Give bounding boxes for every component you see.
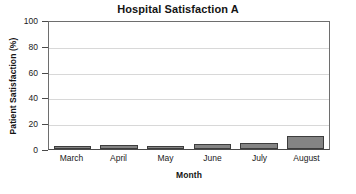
bar-slot — [189, 22, 236, 149]
y-axis-tick-label: 20 — [0, 120, 38, 129]
bar[interactable] — [100, 145, 137, 149]
bar[interactable] — [287, 136, 324, 149]
y-axis-tick-label: 0 — [0, 146, 38, 155]
y-axis-tick-label: 80 — [0, 43, 38, 52]
y-axis-tick-label: 60 — [0, 69, 38, 78]
chart-container: Hospital Satisfaction A Patient Satisfac… — [0, 0, 356, 194]
x-axis-tick-label: July — [236, 153, 283, 163]
x-axis-tick-labels: MarchAprilMayJuneJulyAugust — [48, 153, 330, 163]
bar-series — [49, 22, 329, 149]
bar-slot — [236, 22, 283, 149]
plot-area — [48, 21, 330, 150]
y-axis-tick-mark — [42, 150, 48, 151]
x-axis-tick-label: June — [189, 153, 236, 163]
y-axis-tick-label: 100 — [0, 17, 38, 26]
bar-slot — [282, 22, 329, 149]
x-axis-title: Month — [48, 170, 330, 180]
x-axis-tick-label: May — [142, 153, 189, 163]
chart-title: Hospital Satisfaction A — [0, 3, 356, 15]
bar-slot — [49, 22, 96, 149]
bar[interactable] — [240, 143, 277, 149]
bar[interactable] — [147, 146, 184, 149]
y-axis-title-container: Patient Satisfaction (%) — [6, 21, 20, 150]
y-axis-tick-label: 40 — [0, 94, 38, 103]
x-axis-tick-label: April — [95, 153, 142, 163]
x-axis-tick-label: March — [48, 153, 95, 163]
x-axis-tick-label: August — [283, 153, 330, 163]
bar-slot — [96, 22, 143, 149]
bar-slot — [142, 22, 189, 149]
bar[interactable] — [54, 146, 91, 149]
bar[interactable] — [194, 144, 231, 149]
